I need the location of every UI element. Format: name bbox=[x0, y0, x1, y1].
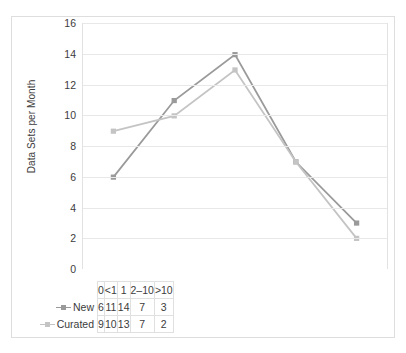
data-point-marker bbox=[354, 220, 359, 225]
legend-swatch-icon bbox=[56, 303, 71, 312]
table-cell: 14 bbox=[117, 299, 130, 316]
table-column-header: >10 bbox=[154, 282, 173, 299]
data-point-marker bbox=[172, 98, 177, 103]
gridline bbox=[83, 115, 387, 116]
data-point-marker bbox=[111, 129, 116, 134]
table-column-header: 2–10 bbox=[130, 282, 154, 299]
table-column-header: 0 bbox=[98, 282, 105, 299]
data-point-marker bbox=[293, 159, 298, 164]
table-header-row: 0<112–10>10 bbox=[18, 282, 173, 299]
table-column-header: 1 bbox=[117, 282, 130, 299]
table-row-header-curated: Curated bbox=[18, 316, 98, 333]
table-row: Curated9101372 bbox=[18, 316, 173, 333]
data-table-body: 0<112–10>10New6111473Curated9101372 bbox=[18, 282, 173, 333]
y-tick-label: 2 bbox=[40, 232, 76, 244]
y-tick-label: 14 bbox=[40, 48, 76, 60]
table-cell: 7 bbox=[130, 316, 154, 333]
table-cell: 13 bbox=[117, 316, 130, 333]
table-cell: 6 bbox=[98, 299, 105, 316]
legend-entry: Curated bbox=[18, 318, 94, 330]
y-tick-label: 4 bbox=[40, 202, 76, 214]
table-corner-cell bbox=[18, 282, 98, 299]
y-axis-tick-labels: 1614121086420 bbox=[40, 17, 76, 281]
y-tick-label: 10 bbox=[40, 109, 76, 121]
y-tick-label: 12 bbox=[40, 79, 76, 91]
y-tick-label: 6 bbox=[40, 171, 76, 183]
table-cell: 3 bbox=[154, 299, 173, 316]
data-point-marker bbox=[232, 67, 237, 72]
legend-label: Curated bbox=[57, 318, 94, 330]
table-column-header: <1 bbox=[104, 282, 117, 299]
gridline bbox=[83, 177, 387, 178]
gridline bbox=[83, 208, 387, 209]
plot-area bbox=[82, 23, 388, 269]
series-line-curated bbox=[113, 70, 356, 238]
gridline bbox=[83, 238, 387, 239]
legend-label: New bbox=[73, 301, 94, 313]
table-row: New6111473 bbox=[18, 299, 173, 316]
series-line-new bbox=[113, 55, 356, 223]
gridline bbox=[83, 146, 387, 147]
gridline bbox=[83, 23, 387, 24]
y-tick-label: 16 bbox=[40, 17, 76, 29]
table-cell: 11 bbox=[104, 299, 117, 316]
table-cell: 2 bbox=[154, 316, 173, 333]
y-tick-label: 8 bbox=[40, 140, 76, 152]
table-cell: 10 bbox=[104, 316, 117, 333]
y-tick-label: 0 bbox=[40, 263, 76, 275]
legend-swatch-icon bbox=[40, 320, 55, 329]
y-axis-title: Data Sets per Month bbox=[26, 61, 37, 193]
data-table: 0<112–10>10New6111473Curated9101372 bbox=[18, 281, 174, 333]
table-row-header-new: New bbox=[18, 299, 98, 316]
plot-zone: Data Sets per Month 1614121086420 bbox=[12, 17, 394, 281]
table-cell: 7 bbox=[130, 299, 154, 316]
gridline bbox=[83, 54, 387, 55]
gridline bbox=[83, 85, 387, 86]
chart-figure: Data Sets per Month 1614121086420 0<112–… bbox=[11, 16, 395, 338]
legend-entry: New bbox=[18, 301, 94, 313]
table-cell: 9 bbox=[98, 316, 105, 333]
